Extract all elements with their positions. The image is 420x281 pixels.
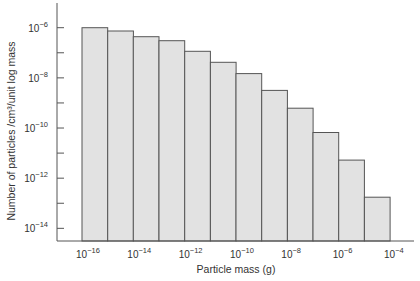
histogram-bar [185,51,211,241]
histogram-bar [82,28,108,241]
y-tick-label: 10−14 [24,220,48,234]
histogram-bar [236,74,262,241]
x-tick-label: 10−16 [76,246,100,260]
histogram-bar [210,62,236,241]
y-ticks-group: 10−610−810−1010−1210−14 [24,20,64,235]
histogram-bar [108,31,134,241]
x-tick-label: 10−12 [179,246,203,260]
histogram-bar [339,160,365,241]
x-tick-label: 10−4 [384,246,404,260]
y-tick-label: 10−10 [24,120,48,134]
histogram-bar [262,90,288,241]
histogram-bar [313,133,339,242]
x-axis-title: Particle mass (g) [197,263,276,275]
histogram-bar [133,37,159,241]
y-tick-label: 10−6 [28,20,48,34]
x-ticks-group: 10−1610−1410−1210−1010−810−610−4 [76,246,404,260]
y-tick-label: 10−8 [28,70,48,84]
histogram-bar [364,197,390,241]
histogram-bar [159,41,185,241]
y-axis-title: Number of particles /cm³/unit log mass [5,41,17,220]
histogram-bar [287,108,313,241]
histogram-chart: 10−610−810−1010−1210−14 10−1610−1410−121… [0,0,420,281]
bars-group [82,28,390,241]
y-tick-label: 10−12 [24,170,48,184]
x-tick-label: 10−14 [127,246,151,260]
x-tick-label: 10−6 [333,246,353,260]
x-tick-label: 10−10 [230,246,254,260]
x-tick-label: 10−8 [281,246,301,260]
